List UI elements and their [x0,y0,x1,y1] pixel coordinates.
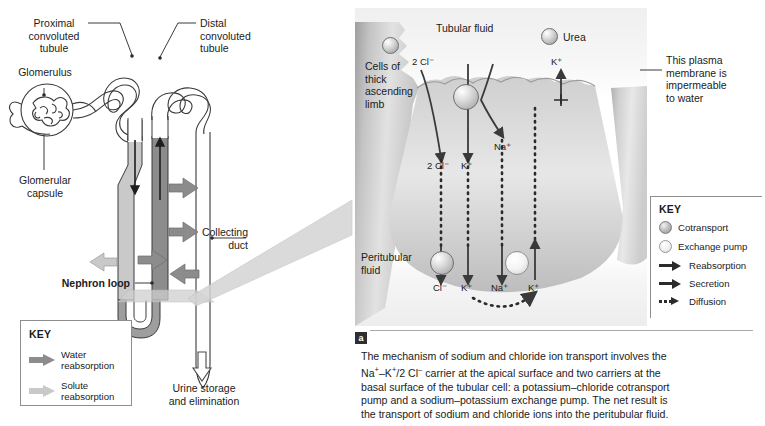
cotransport-sphere-basal [430,251,454,275]
caption-line: basal surface of the tubular cell: a pot… [361,381,670,393]
label-line: tubule [200,42,290,55]
caption-line: pump and a sodium–potassium exchange pum… [361,394,668,406]
label-distal-convoluted-tubule: Distal convoluted tubule [200,17,290,55]
key-item-cotransport: Cotransport [659,221,754,234]
ion-label-na-intracellular: Na⁺ [494,141,511,152]
caption-frag: /2 Cl [396,367,418,379]
label-line: limb [365,98,439,111]
key-item-label: Cotransport [678,222,728,233]
label-collecting-duct: Collecting duct [176,226,248,251]
caption-frag: –K [379,367,392,379]
cell-shape-drawing [355,8,647,326]
collecting-duct [196,132,210,388]
label-line: Glomerular [2,174,88,187]
label-line: convoluted [16,30,92,43]
key-item-label: Solute reabsorption [61,380,114,402]
nephron-panel: Proximal convoluted tubule Glomerulus Gl… [0,0,352,426]
nephron-key-title: KEY [29,328,123,340]
label-line: and elimination [148,395,260,408]
cell-transport-panel: Cells of thick ascending limb Tubular fl… [355,8,647,326]
ion-label-k-intracellular: K⁺ [461,160,472,171]
caption-line: The mechanism of sodium and chloride ion… [361,350,667,362]
ion-label-na-basal: Na⁺ [491,282,508,293]
descending-limb [118,118,142,300]
ion-label-k-leak: K⁺ [551,56,562,67]
key-item-secretion: Secretion [659,278,754,289]
urea-sphere [382,37,399,54]
key-item-label: Diffusion [689,296,726,307]
label-line: Collecting [176,226,248,239]
label-nephron-loop: Nephron loop [18,277,130,290]
glomerulus-group [10,84,96,136]
label-cells-thick-ascending-limb: Cells of thick ascending limb [365,60,439,110]
ion-label-2cl-apical: 2 Cl⁻ [412,56,434,67]
block-arrow-dark-icon [29,354,55,367]
key-label-line: reabsorption [61,360,114,371]
nephron-key-box: KEY Water reabsorption Solute reabsorpti… [20,320,132,406]
label-line: Nephron loop [18,277,130,290]
label-line: Proximal [16,17,92,30]
dotted-exchange-loop [473,296,531,307]
caption-block: a The mechanism of sodium and chloride i… [355,332,753,422]
label-line: convoluted [200,30,290,43]
label-line: thick [365,73,439,86]
caption-badge: a [355,332,367,344]
cotransport-sphere-icon [659,221,672,234]
key-item-solute-reabsorption: Solute reabsorption [29,380,123,402]
label-line: This plasma [666,54,762,67]
cotransport-sphere-apical [453,84,479,110]
solid-arrow-icon [659,261,683,271]
key-item-reabsorption: Reabsorption [659,260,754,271]
cell-key-title: KEY [659,203,754,215]
label-line: Urine storage [148,382,260,395]
label-line: to water [666,92,762,105]
ion-label-k-basal-2: K⁺ [528,282,539,293]
caption-rule [370,330,753,331]
label-glomerular-capsule: Glomerular capsule [2,174,88,199]
key-item-diffusion: Diffusion [659,296,754,307]
caption-frag: Na [361,367,375,379]
label-line: impermeable [666,79,762,92]
caption-line-formula: Na+–K+/2 Cl– carrier at the apical surfa… [361,367,661,379]
zoom-wedge [188,200,352,306]
exchange-pump-sphere-basal [505,251,529,275]
label-line: tubule [16,42,92,55]
ion-label-cl-basal: Cl⁻ [433,282,447,293]
figure-root: Proximal convoluted tubule Glomerulus Gl… [0,0,765,426]
label-plasma-membrane-callout: This plasma membrane is impermeable to w… [666,54,762,104]
caption-text: The mechanism of sodium and chloride ion… [355,350,739,422]
label-line: Distal [200,17,290,30]
label-line: fluid [361,264,431,277]
label-line: duct [176,239,248,252]
label-line: Peritubular [361,251,431,264]
label-peritubular-fluid: Peritubular fluid [361,251,431,276]
dotted-arrow-icon [659,297,683,307]
solid-arrow-icon [659,279,683,289]
key-item-label: Reabsorption [689,260,746,271]
key-item-label: Water reabsorption [61,349,114,371]
key-label-line: Solute [61,380,88,391]
block-arrow-light-icon [29,385,55,398]
label-tubular-fluid: Tubular fluid [436,22,493,35]
key-label-line: reabsorption [61,391,114,402]
key-label-line: Water [61,349,86,360]
label-urea: Urea [563,31,586,44]
ion-label-k-basal: K⁺ [461,282,472,293]
label-line: membrane is [666,67,762,80]
urea-sphere [541,28,558,45]
key-item-label: Exchange pump [678,241,747,252]
caption-frag: carrier at the apical surface and two ca… [422,367,660,379]
label-urine-storage: Urine storage and elimination [148,382,260,407]
label-line: ascending [365,85,439,98]
key-item-label: Secretion [689,278,730,289]
label-line: capsule [2,187,88,200]
ion-label-2cl-intracellular: 2 Cl⁻ [427,160,449,171]
caption-line: the transport of sodium and chloride ion… [361,408,668,420]
cell-key-box: KEY Cotransport Exchange pump Reabsorpti… [650,196,762,318]
key-item-water-reabsorption: Water reabsorption [29,349,123,371]
exchange-pump-sphere-icon [659,240,672,253]
key-item-exchange-pump: Exchange pump [659,240,754,253]
label-line: Glomerulus [5,66,85,79]
label-proximal-convoluted-tubule: Proximal convoluted tubule [16,17,92,55]
label-glomerulus: Glomerulus [5,66,85,79]
